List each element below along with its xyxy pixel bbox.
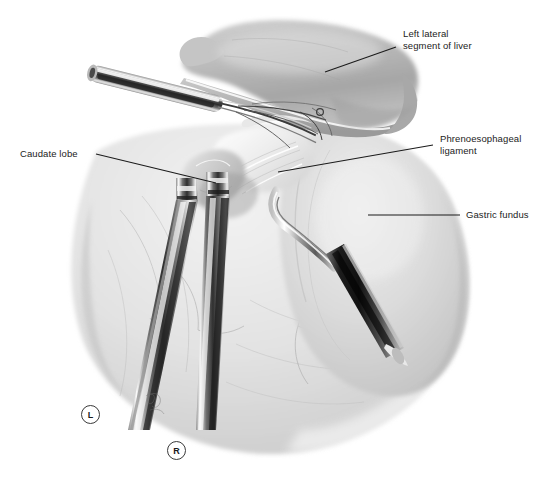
label-gastric-fundus: Gastric fundus — [466, 209, 529, 221]
orientation-marker-right: R — [167, 441, 186, 460]
label-phrenoesophageal-ligament: Phrenoesophageal ligament — [440, 133, 521, 156]
label-left-lateral-segment-of-liver: Left lateral segment of liver — [403, 28, 472, 51]
orientation-marker-left: L — [81, 405, 100, 424]
label-caudate-lobe: Caudate lobe — [20, 148, 78, 160]
